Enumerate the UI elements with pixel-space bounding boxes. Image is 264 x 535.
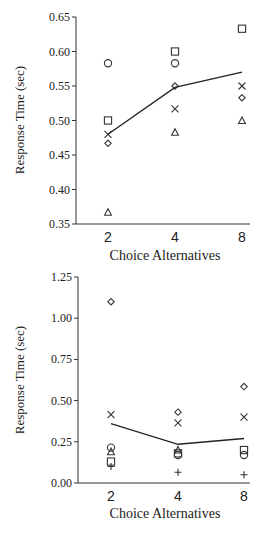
diamond-marker-icon [105,140,111,146]
y-tick-label: 0.50 [51,394,72,408]
y-tick-label: 1.00 [51,311,72,325]
y-tick-label: 0.65 [49,10,70,24]
svg-text:Response Time (sec): Response Time (sec) [12,66,27,174]
circle-marker-icon [104,60,111,67]
svg-text:Response Time (sec): Response Time (sec) [12,326,27,434]
triangle-marker-icon [172,129,179,136]
x-marker-icon [239,83,246,90]
y-tick-label: 1.25 [51,270,72,284]
y-axis-label: Response Time (sec) [12,326,27,434]
y-tick-label: 0.75 [51,352,72,366]
x-marker-icon [241,414,248,421]
x-axis-label: Choice Alternatives [110,506,221,521]
square-marker-icon [171,48,178,55]
y-tick-label: 0.55 [49,79,70,93]
y-tick-label: 0.35 [49,217,70,231]
y-tick-label: 0.40 [49,183,70,197]
diamond-marker-icon [108,299,114,305]
triangle-marker-icon [105,209,112,216]
axes [78,277,250,483]
x-axis-label: Choice Alternatives [110,248,221,263]
plus-marker-icon [241,471,248,478]
y-tick-label: 0.25 [51,435,72,449]
square-marker-icon [104,117,111,124]
x-marker-icon [172,105,179,112]
x-tick-label: 4 [171,229,179,245]
y-tick-label: 0.45 [49,148,70,162]
square-marker-icon [238,25,245,32]
y-axis-label: Response Time (sec) [12,66,27,174]
diamond-marker-icon [175,409,181,415]
triangle-marker-icon [239,117,246,124]
circle-marker-icon [171,60,178,67]
chart-bottom-response-time: Response Time (sec) 0.000.250.500.751.00… [0,265,264,535]
mean-line [108,72,242,134]
circle-marker-icon [240,451,247,458]
diamond-marker-icon [241,383,247,389]
x-tick-label: 2 [104,229,112,245]
plus-marker-icon [175,469,182,476]
y-tick-label: 0.50 [49,114,70,128]
y-tick-label: 0.60 [49,45,70,59]
mean-line [111,424,244,445]
x-tick-label: 2 [107,488,115,504]
plus-marker-icon [108,463,115,470]
x-tick-label: 8 [240,488,248,504]
y-tick-label: 0.00 [51,476,72,490]
diamond-marker-icon [239,95,245,101]
axes [76,17,250,224]
x-marker-icon [175,419,182,426]
chart-top-response-time: Response Time (sec) 0.350.400.450.500.55… [0,0,264,265]
x-marker-icon [108,411,115,418]
x-tick-label: 8 [238,229,246,245]
x-tick-label: 4 [174,488,182,504]
